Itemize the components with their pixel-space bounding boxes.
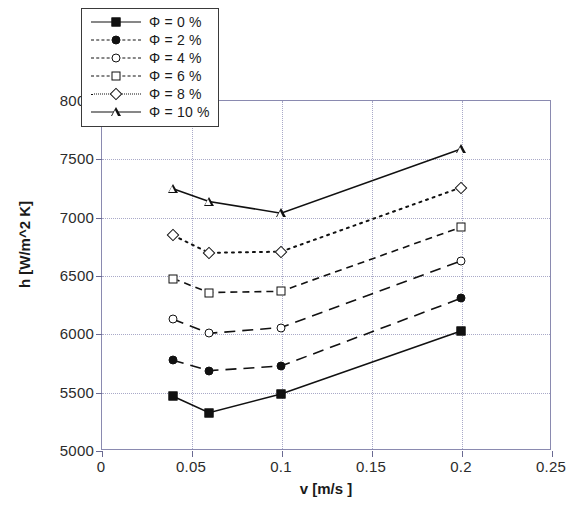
- gridline-horizontal: [102, 218, 550, 219]
- x-axis-tick-label: 0.2: [450, 458, 471, 475]
- x-axis-tick-label: 0.1: [270, 458, 291, 475]
- legend-marker-icon: [110, 88, 123, 101]
- y-axis-tick-label: 5500: [38, 383, 94, 400]
- legend-item-label: Φ = 10 %: [143, 104, 210, 120]
- legend-item-label: Φ = 0 %: [143, 14, 202, 30]
- y-axis-tick: [96, 218, 102, 219]
- y-axis-tick-label: 7000: [38, 208, 94, 225]
- x-axis-tick-label: 0.15: [356, 458, 386, 475]
- gridline-horizontal: [102, 276, 550, 277]
- legend-marker-icon: [112, 36, 121, 45]
- x-axis-tick-label: 0.05: [176, 458, 206, 475]
- gridline-vertical: [192, 101, 193, 449]
- legend-item-label: Φ = 8 %: [143, 86, 202, 102]
- gridline-vertical: [282, 101, 283, 449]
- y-axis-tick: [96, 334, 102, 335]
- legend-item: Φ = 10 %: [89, 103, 210, 121]
- x-axis-tick-label: 0.25: [536, 458, 566, 475]
- legend-sample: [89, 85, 143, 103]
- y-axis-tick: [96, 276, 102, 277]
- legend-sample: [89, 103, 143, 121]
- legend: Φ = 0 %Φ = 2 %Φ = 4 %Φ = 6 %Φ = 8 %Φ = 1…: [81, 8, 219, 127]
- legend-item: Φ = 2 %: [89, 31, 210, 49]
- y-axis-tick-labels: 5000550060006500700075008000: [36, 100, 94, 450]
- plot-area: [101, 100, 551, 450]
- x-axis-tick-labels: 00.050.10.150.20.25: [101, 452, 551, 476]
- legend-marker-icon: [112, 54, 121, 63]
- legend-sample: [89, 31, 143, 49]
- legend-sample: [89, 13, 143, 31]
- y-axis-tick-label: 6000: [38, 325, 94, 342]
- y-axis-title: h [W/m^2 K]: [16, 145, 33, 345]
- legend-marker-icon: [112, 18, 121, 27]
- legend-marker-icon: [112, 72, 121, 81]
- legend-sample: [89, 67, 143, 85]
- x-axis-title: v [m/s ]: [101, 480, 551, 497]
- y-axis-tick-label: 5000: [38, 442, 94, 459]
- legend-item-label: Φ = 6 %: [143, 68, 202, 84]
- legend-item: Φ = 8 %: [89, 85, 210, 103]
- y-axis-tick: [96, 159, 102, 160]
- x-axis-tick: [552, 451, 553, 457]
- legend-item: Φ = 0 %: [89, 13, 210, 31]
- legend-item: Φ = 4 %: [89, 49, 210, 67]
- y-axis-tick-label: 7500: [38, 150, 94, 167]
- gridline-vertical: [462, 101, 463, 449]
- x-axis-tick-label: 0: [97, 458, 106, 475]
- legend-sample: [89, 49, 143, 67]
- y-axis-tick: [96, 393, 102, 394]
- legend-marker-icon: [111, 107, 121, 116]
- legend-item: Φ = 6 %: [89, 67, 210, 85]
- gridline-horizontal: [102, 334, 550, 335]
- y-axis-tick-label: 6500: [38, 267, 94, 284]
- legend-item-label: Φ = 4 %: [143, 50, 202, 66]
- gridline-vertical: [372, 101, 373, 449]
- legend-item-label: Φ = 2 %: [143, 32, 202, 48]
- gridline-horizontal: [102, 159, 550, 160]
- gridline-horizontal: [102, 393, 550, 394]
